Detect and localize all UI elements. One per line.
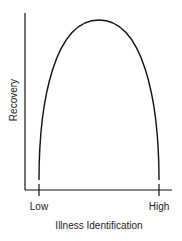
recovery-curve: [39, 20, 159, 180]
x-axis-label: Illness Identification: [55, 220, 142, 231]
y-axis-label: Recovery: [8, 79, 19, 121]
chart: Low High Illness Identification Recovery: [0, 0, 182, 241]
x-tick-label-high: High: [149, 201, 170, 212]
x-tick-label-low: Low: [30, 201, 49, 212]
